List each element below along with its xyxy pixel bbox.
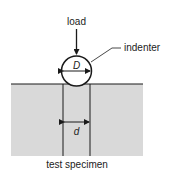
load-label: load bbox=[67, 16, 86, 27]
brinell-diagram: load indenter D d test specimen bbox=[0, 0, 176, 176]
specimen-label: test specimen bbox=[46, 159, 108, 170]
test-specimen-block bbox=[11, 84, 143, 156]
indent-diameter-label: d bbox=[74, 126, 80, 137]
indenter-leader-line bbox=[91, 48, 121, 62]
ball-diameter-label: D bbox=[73, 60, 80, 71]
indenter-label: indenter bbox=[124, 42, 161, 53]
